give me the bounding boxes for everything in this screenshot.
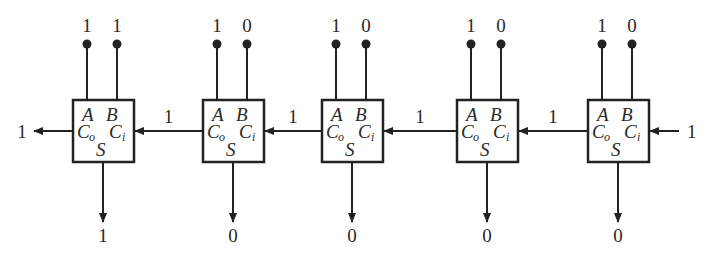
input-a-value: 1	[597, 15, 607, 36]
label-s: S	[226, 139, 236, 160]
full-adder-4: 10ABCoCiS0	[457, 15, 518, 246]
label-ci-sub: i	[371, 130, 374, 144]
input-a-terminal	[213, 40, 222, 49]
full-adder-3: 10ABCoCiS0	[322, 15, 383, 246]
input-a-value: 1	[212, 15, 222, 36]
sum-value: 0	[228, 225, 238, 246]
carry-in-value: 1	[687, 121, 697, 142]
sum-value: 0	[347, 225, 357, 246]
input-b-value: 1	[112, 15, 122, 36]
full-adder-5: 10ABCoCiS0	[588, 15, 649, 246]
label-s: S	[345, 139, 355, 160]
input-b-value: 0	[627, 15, 637, 36]
label-ci-sub: i	[506, 130, 509, 144]
label-co-sub: o	[338, 130, 344, 144]
label-co-sub: o	[89, 130, 95, 144]
input-b-terminal	[628, 40, 637, 49]
carry-out-value: 1	[17, 121, 27, 142]
sum-value: 0	[482, 225, 492, 246]
label-co-sub: o	[219, 130, 225, 144]
input-b-value: 0	[361, 15, 371, 36]
carry-value-4: 1	[548, 106, 558, 127]
carry-value-2: 1	[288, 106, 298, 127]
carry-value-1: 1	[164, 106, 174, 127]
input-b-terminal	[497, 40, 506, 49]
label-ci-sub: i	[637, 130, 640, 144]
label-ci: C	[109, 121, 122, 142]
label-ci: C	[358, 121, 371, 142]
input-a-terminal	[83, 40, 92, 49]
input-a-value: 1	[466, 15, 476, 36]
input-a-terminal	[467, 40, 476, 49]
adder-diagram: 11ABCoCiS110ABCoCiS010ABCoCiS010ABCoCiS0…	[0, 0, 714, 260]
label-s: S	[611, 139, 621, 160]
carry-value-3: 1	[415, 106, 425, 127]
input-b-terminal	[113, 40, 122, 49]
label-ci: C	[624, 121, 637, 142]
input-a-value: 1	[82, 15, 92, 36]
input-a-value: 1	[331, 15, 341, 36]
input-a-terminal	[332, 40, 341, 49]
full-adder-2: 10ABCoCiS0	[203, 15, 264, 246]
input-a-terminal	[598, 40, 607, 49]
label-ci: C	[239, 121, 252, 142]
sum-value: 1	[98, 225, 108, 246]
input-b-terminal	[362, 40, 371, 49]
sum-value: 0	[613, 225, 623, 246]
label-co-sub: o	[604, 130, 610, 144]
label-s: S	[96, 139, 106, 160]
input-b-value: 0	[242, 15, 252, 36]
input-b-terminal	[243, 40, 252, 49]
full-adder-1: 11ABCoCiS1	[73, 15, 134, 246]
label-ci: C	[493, 121, 506, 142]
label-ci-sub: i	[252, 130, 255, 144]
input-b-value: 0	[496, 15, 506, 36]
label-s: S	[480, 139, 490, 160]
label-ci-sub: i	[122, 130, 125, 144]
label-co-sub: o	[473, 130, 479, 144]
